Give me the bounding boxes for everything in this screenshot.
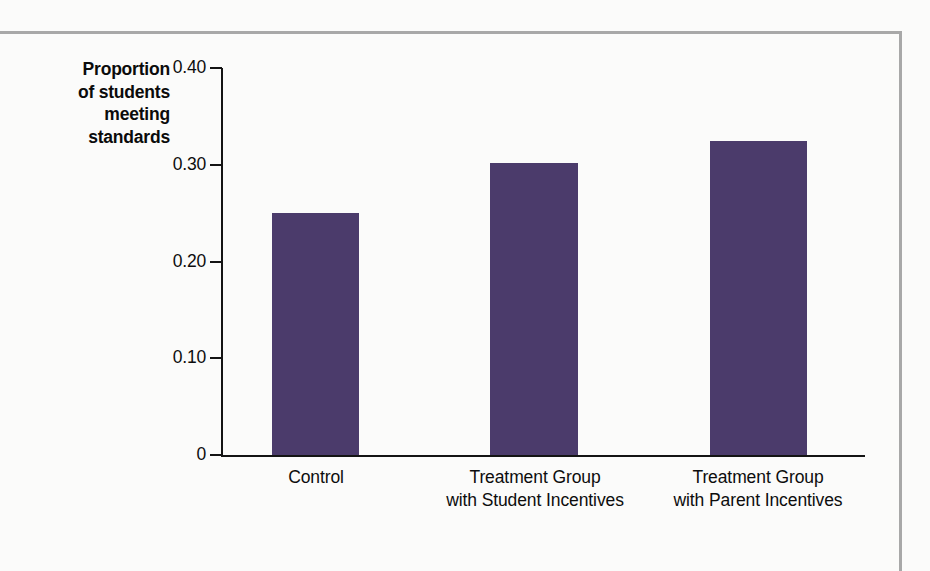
y-axis-tick-0.40: [210, 67, 222, 69]
bar-1[interactable]: [490, 163, 578, 455]
y-axis-tick-0.20: [210, 261, 222, 263]
x-axis-label-1: Treatment Groupwith Student Incentives: [424, 466, 646, 512]
x-axis-label-0: Control: [205, 466, 427, 489]
bar-0[interactable]: [272, 213, 359, 455]
y-axis-tick-label-0.20: 0.20: [106, 251, 206, 272]
y-axis-tick-0.30: [210, 164, 222, 166]
x-axis-label-2-line-0: Treatment Group: [647, 466, 869, 489]
x-axis-label-2: Treatment Groupwith Parent Incentives: [647, 466, 869, 512]
chart-figure: Proportion of students meeting standards…: [0, 0, 930, 571]
y-axis-line: [221, 68, 223, 457]
figure-border-right: [899, 31, 902, 571]
y-axis-tick-label-0.10: 0.10: [106, 347, 206, 368]
y-axis-tick-label-0.30: 0.30: [106, 154, 206, 175]
y-axis-tick-label-0.40: 0.40: [106, 57, 206, 78]
y-axis-tick-label-0: 0: [106, 444, 206, 465]
x-axis-label-2-line-1: with Parent Incentives: [647, 489, 869, 512]
x-axis-label-0-line-0: Control: [205, 466, 427, 489]
x-axis-label-1-line-0: Treatment Group: [424, 466, 646, 489]
y-axis-tick-0: [210, 454, 222, 456]
x-axis-line: [221, 455, 865, 457]
y-axis-tick-labels: 00.100.200.300.40: [96, 0, 206, 571]
y-axis-tick-0.10: [210, 357, 222, 359]
x-axis-label-1-line-1: with Student Incentives: [424, 489, 646, 512]
bar-2[interactable]: [710, 141, 807, 455]
